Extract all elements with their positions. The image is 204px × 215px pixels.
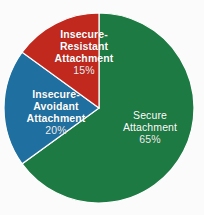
pie-chart-svg <box>0 0 204 215</box>
pie-slices <box>4 13 194 203</box>
pie-chart: Secure Attachment 65% Insecure- Avoidant… <box>0 0 204 215</box>
